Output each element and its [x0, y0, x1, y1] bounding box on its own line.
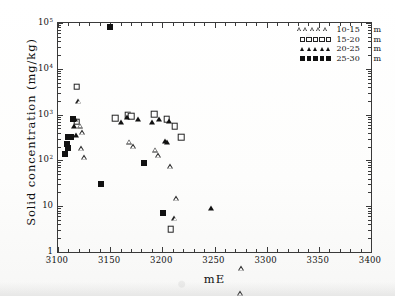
x-axis-minor-tick — [141, 249, 142, 252]
y-axis-minor-tick — [368, 101, 371, 102]
legend-unit-label: m — [373, 35, 381, 45]
legend-unit-label: m — [373, 54, 381, 64]
figure: Solid concentration (mg/kg) mE 10-15m15-… — [0, 0, 395, 296]
y-axis-minor-tick — [368, 128, 371, 129]
data-point-filled-square-marker — [65, 145, 71, 151]
legend-entry: 10-15m — [299, 25, 381, 35]
data-point-filled-square-marker — [70, 116, 76, 122]
y-axis-minor-tick — [368, 179, 371, 180]
x-axis-minor-tick — [340, 249, 341, 252]
y-axis-minor-tick — [368, 139, 371, 140]
x-axis-tick — [267, 247, 268, 252]
y-axis-minor-tick — [368, 171, 371, 172]
legend-marker-group — [299, 36, 333, 42]
x-axis-minor-tick — [329, 249, 330, 252]
x-axis-minor-tick — [204, 249, 205, 252]
y-axis-minor-tick — [368, 162, 371, 163]
legend: 10-15m15-20m20-25m25-30m — [299, 25, 381, 63]
y-axis-tick — [58, 23, 63, 24]
x-axis-minor-tick — [246, 23, 247, 26]
x-axis-minor-tick — [288, 23, 289, 26]
y-axis-minor-tick — [368, 93, 371, 94]
x-axis-tick-label: 3100 — [46, 255, 68, 265]
y-axis-minor-tick — [368, 87, 371, 88]
data-point-filled-triangle-marker — [73, 133, 79, 138]
open-square-marker — [299, 36, 305, 42]
data-point-open-triangle-marker — [238, 291, 244, 296]
legend-unit-label: m — [373, 25, 381, 35]
x-axis-minor-tick — [225, 249, 226, 252]
x-axis-tick — [215, 247, 216, 252]
x-axis-minor-tick — [256, 23, 257, 26]
y-axis-tick — [58, 115, 63, 116]
y-axis-tick — [366, 23, 371, 24]
data-point-open-triangle-marker — [155, 153, 161, 158]
x-axis-minor-tick — [152, 249, 153, 252]
y-axis-minor-tick — [368, 224, 371, 225]
x-axis-minor-tick — [121, 23, 122, 26]
x-axis-tick-label: 3300 — [254, 255, 276, 265]
y-axis-minor-tick — [58, 71, 61, 72]
data-point-open-square-marker — [172, 123, 179, 130]
y-axis-minor-tick — [368, 220, 371, 221]
data-point-filled-triangle-marker — [164, 140, 170, 145]
y-axis-minor-tick — [368, 174, 371, 175]
y-axis-minor-tick — [58, 25, 61, 26]
legend-marker-group — [299, 46, 333, 52]
data-point-open-triangle-marker — [81, 155, 87, 160]
y-axis-minor-tick — [368, 133, 371, 134]
y-axis-minor-tick — [58, 55, 61, 56]
y-axis-minor-tick — [368, 213, 371, 214]
x-axis-minor-tick — [204, 23, 205, 26]
x-axis-minor-tick — [308, 249, 309, 252]
x-axis-tick-label: 3200 — [150, 255, 172, 265]
x-axis-minor-tick — [68, 23, 69, 26]
y-axis-minor-tick — [368, 83, 371, 84]
x-axis-minor-tick — [131, 23, 132, 26]
y-axis-minor-tick — [58, 224, 61, 225]
filled-triangle-marker — [312, 46, 318, 52]
filled-square-marker — [325, 56, 331, 62]
legend-range-label: 10-15 — [336, 25, 366, 35]
x-axis-minor-tick — [277, 23, 278, 26]
x-axis-minor-tick — [89, 249, 90, 252]
y-axis-minor-tick — [58, 33, 61, 34]
x-axis-tick-label: 3250 — [202, 255, 224, 265]
x-axis-minor-tick — [225, 23, 226, 26]
legend-range-label: 15-20 — [336, 35, 366, 45]
filled-triangle-marker — [325, 46, 331, 52]
y-axis-minor-tick — [58, 76, 61, 77]
y-axis-tick — [58, 160, 63, 161]
y-axis-title: Solid concentration (mg/kg) — [24, 17, 38, 247]
y-axis-minor-tick — [58, 73, 61, 74]
y-axis-tick — [58, 252, 63, 253]
data-point-open-triangle-marker — [79, 129, 85, 134]
x-axis-tick-label: 3350 — [307, 255, 329, 265]
y-axis-minor-tick — [58, 162, 61, 163]
y-axis-minor-tick — [58, 37, 61, 38]
y-axis-minor-tick — [58, 139, 61, 140]
y-axis-minor-tick — [368, 76, 371, 77]
x-axis-minor-tick — [194, 23, 195, 26]
y-axis-tick — [366, 206, 371, 207]
legend-entry: 25-30m — [299, 54, 381, 64]
y-axis-minor-tick — [58, 230, 61, 231]
x-axis-tick-label: 3400 — [359, 255, 381, 265]
x-axis-minor-tick — [68, 249, 69, 252]
x-axis-minor-tick — [173, 249, 174, 252]
data-point-filled-triangle-marker — [135, 117, 141, 122]
legend-marker-group — [299, 56, 333, 62]
y-axis-minor-tick — [58, 167, 61, 168]
data-point-filled-square-marker — [107, 24, 113, 30]
y-axis-tick — [366, 69, 371, 70]
x-axis-minor-tick — [256, 249, 257, 252]
x-axis-tick — [319, 247, 320, 252]
legend-entry: 15-20m — [299, 35, 381, 45]
y-axis-minor-tick — [368, 119, 371, 120]
data-point-open-triangle-marker — [152, 147, 158, 152]
data-point-open-triangle-marker — [76, 99, 82, 104]
y-axis-minor-tick — [58, 125, 61, 126]
y-axis-minor-tick — [58, 220, 61, 221]
y-axis-minor-tick — [368, 165, 371, 166]
open-square-marker — [306, 36, 312, 42]
